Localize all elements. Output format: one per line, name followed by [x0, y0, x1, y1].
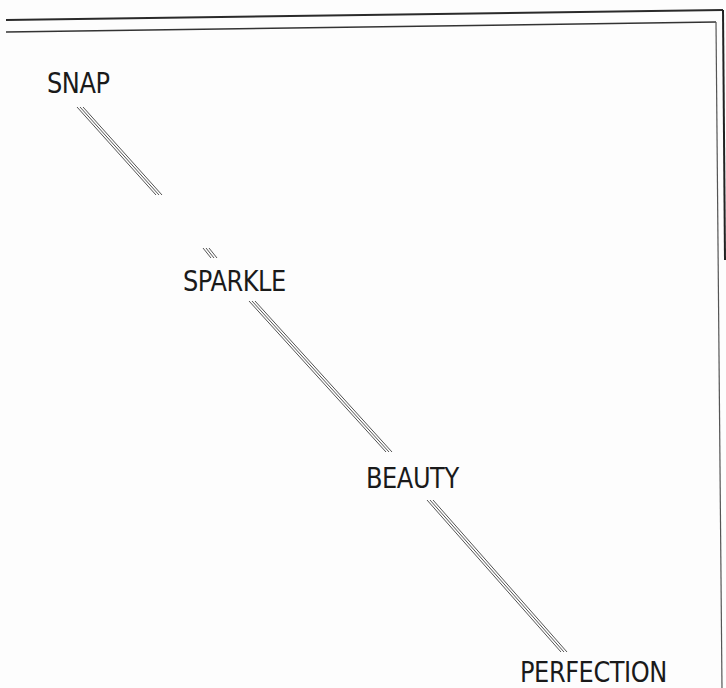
top-rule-inner: [6, 22, 716, 32]
word-sparkle: SPARKLE: [183, 268, 286, 296]
word-perfection: PERFECTION: [520, 659, 667, 687]
connector-snap-sparkle: [77, 107, 162, 195]
word-beauty: BEAUTY: [366, 465, 459, 493]
document-page: SNAP SPARKLE BEAUTY PERFECTION: [0, 0, 726, 688]
top-rule-outer: [6, 10, 723, 20]
right-rule-inner: [716, 22, 722, 688]
connector-tick-sparkle: [203, 248, 217, 258]
right-rule-outer: [723, 10, 725, 260]
frame-graphics: [0, 0, 726, 688]
connector-beauty-perfection: [427, 500, 567, 652]
connector-sparkle-beauty: [249, 301, 392, 452]
word-snap: SNAP: [47, 70, 110, 98]
